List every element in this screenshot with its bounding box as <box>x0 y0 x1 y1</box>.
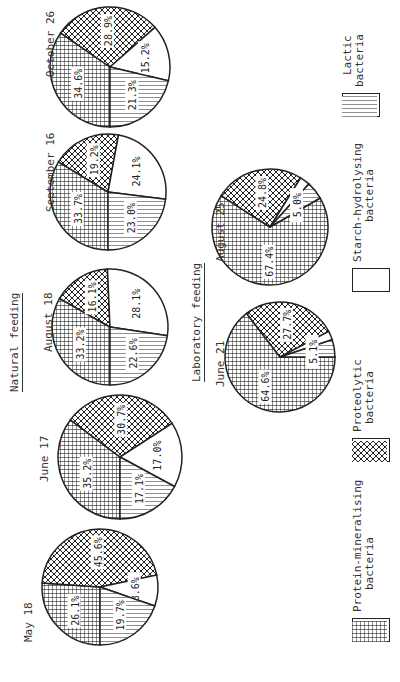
slice-label: 24.1% <box>131 156 142 186</box>
slice-label: 28.1% <box>131 289 142 319</box>
slice-label: 45.6% <box>93 537 104 567</box>
slice-label: 34.6% <box>73 69 84 99</box>
legend-lactic: Lacticbacteria <box>342 34 380 117</box>
date-label-jun17: June 17 <box>38 436 51 482</box>
date-label-oct26: October 26 <box>44 11 57 77</box>
slice-label: 19.7% <box>115 600 126 630</box>
slice-label: 5.1% <box>308 340 319 364</box>
group-title-natural: Natural feeding <box>8 293 23 392</box>
slice-label: 35.2% <box>82 459 93 489</box>
slice-label: 64.6% <box>260 372 271 402</box>
slice-label: 27.7% <box>282 310 293 340</box>
legend-swatch-crosshatch-icon <box>352 438 390 462</box>
slice-label: 67.4% <box>264 247 275 277</box>
slice-label: 21.3% <box>127 80 138 110</box>
legend-label: bacteria <box>354 34 366 87</box>
slice-label: 17.1% <box>134 474 145 504</box>
legend-proteolytic: Proteolyticbacteria <box>352 359 390 462</box>
slice-label: 24.8% <box>257 178 268 208</box>
legend-swatch-vertical-lines-icon <box>342 93 380 117</box>
date-label-aug25: August 25 <box>214 202 227 262</box>
slice-label: 33.7% <box>73 194 84 224</box>
legend-label: bacteria <box>364 480 376 612</box>
slice-label: 23.0% <box>126 203 137 233</box>
slice-label: 17.0% <box>152 441 163 471</box>
slice-label: 19.2% <box>89 145 100 175</box>
slice-label: 16.1% <box>87 282 98 312</box>
slice-label: 5.0% <box>292 193 303 217</box>
slice-label: 33.2% <box>75 329 86 359</box>
date-label-jun21: June 21 <box>214 341 227 387</box>
date-label-aug18: August 18 <box>42 292 55 352</box>
slice-label: 22.6% <box>128 338 139 368</box>
legend-starch: Starch-hydrolysingbacteria <box>352 143 390 292</box>
slice-label: 30.7% <box>116 405 127 435</box>
legend-swatch-grid-icon <box>352 618 390 642</box>
slice-label: 26.1% <box>70 596 81 626</box>
slice-label: 28.9% <box>103 16 114 46</box>
date-label-may18: May 18 <box>22 602 35 642</box>
chart-stage: 26.1%45.6%8.6%19.7%35.2%30.7%17.0%17.1%3… <box>0 0 400 682</box>
legend-protein-mineralising: Protein-mineralisingbacteria <box>352 480 390 642</box>
legend-label: bacteria <box>364 143 376 262</box>
slice-label: 15.2% <box>140 43 151 73</box>
legend-swatch-blank-icon <box>352 268 390 292</box>
legend-label: bacteria <box>364 359 376 432</box>
date-label-sep16: September 16 <box>44 133 57 212</box>
group-title-laboratory: Laboratory feeding <box>190 263 205 382</box>
